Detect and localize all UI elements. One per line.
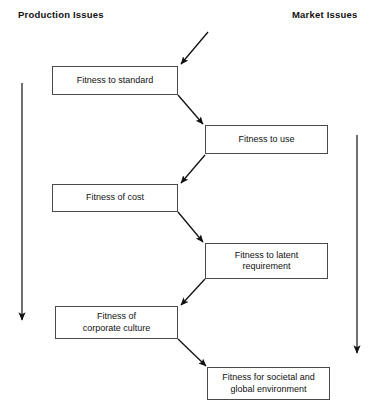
- heading-market-issues: Market Issues: [292, 9, 357, 20]
- connector-use-to-cost: [181, 155, 205, 183]
- node-fitness-to-standard[interactable]: Fitness to standard: [52, 66, 178, 95]
- entry-arrow: [181, 32, 208, 64]
- connector-culture-to-societal: [178, 339, 206, 366]
- fitness-hierarchy-diagram: Production Issues Market Issues Fitness …: [0, 0, 378, 420]
- connector-latent-to-culture: [181, 279, 205, 305]
- connector-cost-to-latent: [178, 212, 203, 242]
- node-fitness-of-corporate-culture[interactable]: Fitness of corporate culture: [55, 306, 178, 339]
- heading-production-issues: Production Issues: [18, 9, 104, 20]
- node-fitness-to-use[interactable]: Fitness to use: [205, 125, 328, 154]
- node-fitness-of-cost[interactable]: Fitness of cost: [52, 184, 178, 212]
- node-label: Fitness for societal and global environm…: [222, 372, 315, 395]
- node-label: Fitness to use: [238, 134, 294, 146]
- node-label: Fitness to latent requirement: [235, 250, 299, 273]
- node-label: Fitness of corporate culture: [83, 311, 151, 334]
- node-label: Fitness to standard: [77, 75, 154, 87]
- node-fitness-to-latent-requirement[interactable]: Fitness to latent requirement: [205, 243, 328, 279]
- node-label: Fitness of cost: [86, 192, 144, 204]
- node-fitness-for-societal-and-global-environment[interactable]: Fitness for societal and global environm…: [207, 367, 330, 400]
- connector-standard-to-use: [178, 95, 203, 124]
